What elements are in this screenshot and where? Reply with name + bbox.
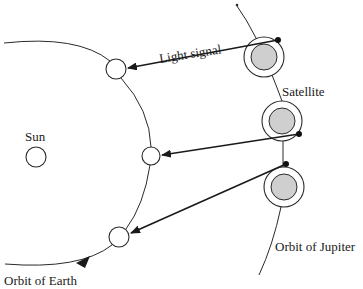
earth-position-1 — [106, 59, 126, 79]
earth-position-3 — [109, 227, 129, 247]
satellite-dot-3 — [283, 161, 289, 167]
sun-label: Sun — [25, 129, 46, 144]
light-signal-arrow-3 — [131, 164, 286, 233]
orbit-diagram: Light signal Satellite Sun Orbit of Jupi… — [0, 0, 363, 289]
earth-position-2 — [142, 147, 160, 165]
satellite-dot-2 — [296, 131, 302, 137]
sun-circle — [26, 147, 46, 167]
earth-orbit-path — [4, 41, 151, 265]
jupiter-orbit-end-dot — [236, 4, 239, 7]
jupiter-position-3 — [264, 167, 304, 207]
orbit-of-earth-label: Orbit of Earth — [4, 273, 77, 288]
satellite-dot-1 — [275, 37, 281, 43]
orbit-of-jupiter-label: Orbit of Jupiter — [275, 239, 356, 254]
earth-orbit-direction-arrow-icon — [76, 256, 90, 268]
satellite-label: Satellite — [282, 84, 325, 99]
light-signal-label: Light signal — [158, 41, 222, 66]
light-signal-arrow-2 — [162, 134, 299, 155]
